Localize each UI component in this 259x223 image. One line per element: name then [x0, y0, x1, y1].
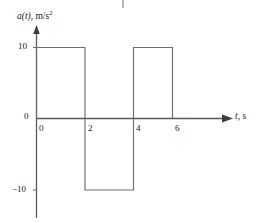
y-axis-arrow-icon	[33, 25, 40, 34]
y-tick-label-neg10: −10	[12, 185, 26, 194]
x-tick-label-2: 2	[88, 124, 93, 133]
y-axis-title-unit: m/s	[35, 11, 49, 21]
y-tick-label-0: 0	[24, 112, 29, 121]
y-tick-label-10: 10	[18, 42, 27, 51]
y-axis-title-exponent: 2	[49, 9, 52, 16]
x-axis-title-unit: s	[242, 111, 246, 121]
y-axis-title: a(t), m/s2	[17, 12, 53, 22]
figure-container: a(t), m/s2 t, s 10 0 −10 0 2 4 6	[0, 0, 259, 223]
y-axis-title-variable: a(t)	[17, 11, 31, 21]
x-tick-label-6: 6	[175, 124, 180, 133]
plot-canvas	[0, 0, 259, 223]
x-axis-arrow-icon	[222, 115, 233, 123]
x-tick-label-0: 0	[39, 124, 44, 133]
x-axis-title: t, s	[235, 112, 246, 122]
x-tick-label-4: 4	[136, 124, 141, 133]
